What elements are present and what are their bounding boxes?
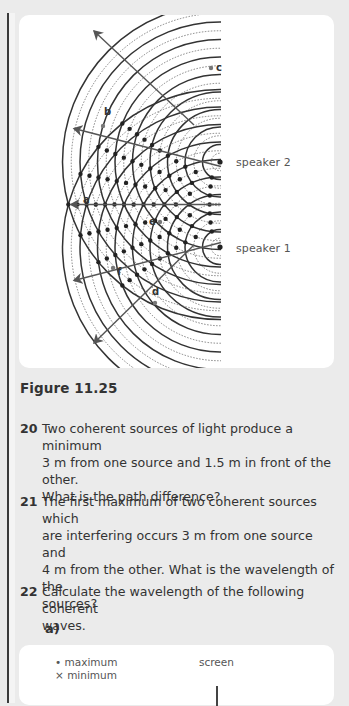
question-line: Calculate the wavelength of the followin… bbox=[42, 583, 336, 617]
legend-minimum: × minimum bbox=[55, 669, 117, 681]
question-line: are interfering occurs 3 m from one sour… bbox=[42, 527, 336, 561]
screen-line bbox=[216, 686, 218, 706]
question-number: 22 bbox=[20, 583, 38, 600]
question-line: Two coherent sources of light produce a … bbox=[42, 420, 336, 454]
interference-diagram bbox=[19, 15, 334, 368]
question-22: 22 Calculate the wavelength of the follo… bbox=[20, 583, 336, 634]
point-a-label: a bbox=[83, 194, 90, 205]
speaker-2-label: speaker 2 bbox=[236, 156, 291, 169]
sub-part-label: a) bbox=[45, 621, 60, 636]
page-margin bbox=[9, 13, 15, 703]
question-number: 21 bbox=[20, 493, 38, 510]
figure-caption: Figure 11.25 bbox=[20, 380, 118, 396]
point-f-label: f bbox=[117, 266, 121, 277]
point-e-label: e bbox=[149, 216, 156, 227]
question-line: 3 m from one source and 1.5 m in front o… bbox=[42, 454, 336, 488]
question-line: waves. bbox=[42, 617, 336, 634]
question-number: 20 bbox=[20, 420, 38, 437]
screen-label: screen bbox=[199, 656, 234, 668]
speaker-1-label: speaker 1 bbox=[236, 242, 291, 255]
point-c-label: c bbox=[216, 62, 222, 73]
question-line: The first maximum of two coherent source… bbox=[42, 493, 336, 527]
point-b-label: b bbox=[104, 106, 111, 117]
page-margin-rule bbox=[7, 13, 9, 703]
point-d-label: d bbox=[152, 286, 159, 297]
figure-panel bbox=[19, 15, 334, 368]
legend-maximum: • maximum bbox=[55, 656, 117, 668]
